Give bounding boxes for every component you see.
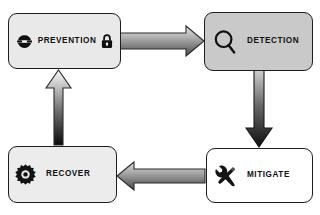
arrow-detection-to-mitigate bbox=[246, 70, 272, 147]
security-cap-icon bbox=[16, 34, 33, 49]
incident-response-cycle-diagram: PREVENTION DETECTION bbox=[0, 0, 320, 215]
node-detection[interactable]: DETECTION bbox=[204, 12, 313, 71]
arrow-recover-to-prevention bbox=[46, 70, 71, 145]
tools-icon bbox=[214, 164, 238, 188]
padlock-icon bbox=[101, 34, 113, 49]
node-recover-label: RECOVER bbox=[46, 170, 90, 178]
node-prevention[interactable]: PREVENTION bbox=[8, 13, 121, 69]
gear-icon bbox=[14, 163, 37, 186]
node-detection-label: DETECTION bbox=[247, 37, 299, 45]
arrow-prevention-to-detection bbox=[118, 26, 204, 56]
node-mitigate-label: MITIGATE bbox=[247, 171, 290, 179]
node-recover[interactable]: RECOVER bbox=[8, 146, 117, 203]
arrow-mitigate-to-recover bbox=[117, 162, 205, 190]
magnifier-icon bbox=[213, 29, 237, 55]
node-prevention-label: PREVENTION bbox=[38, 37, 97, 45]
node-mitigate[interactable]: MITIGATE bbox=[206, 148, 313, 203]
